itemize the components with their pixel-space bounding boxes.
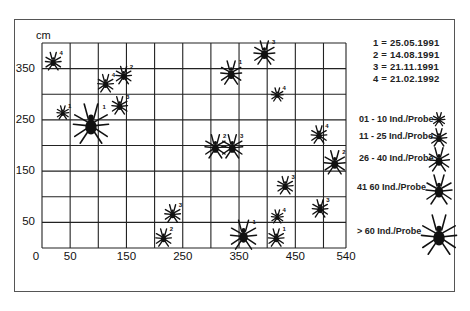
legend-spider-icon [421, 215, 456, 254]
point-date-label: 3 [326, 197, 330, 203]
legend-date-1: 1 = 25.05.1991 [373, 37, 439, 48]
figure-caption-faint [120, 300, 360, 308]
point-date-label: 1 [239, 59, 243, 65]
point-date-label: 4 [282, 85, 286, 91]
legend-date-4: 4 = 21.02.1992 [373, 73, 439, 84]
point-date-label: 1 [282, 226, 286, 232]
spider-marker-icon [271, 210, 283, 223]
legend-spider-icon [431, 129, 447, 146]
grid [42, 43, 346, 248]
legend-spider-icon [426, 175, 452, 204]
data-points: 41142323231341413423 [45, 39, 346, 249]
point-date-label: 4 [112, 72, 116, 78]
point-date-label: 4 [282, 207, 286, 213]
legend-size-1: 01 - 10 Ind./Probe [359, 114, 434, 124]
point-date-label: 1 [102, 104, 106, 110]
legend-date-3: 3 = 21.11.1991 [373, 61, 439, 72]
point-date-label: 3 [126, 94, 130, 100]
spider-marker-icon [271, 88, 283, 101]
point-date-label: 2 [223, 133, 227, 139]
point-date-label: 2 [170, 226, 174, 232]
spider-marker-icon [57, 106, 69, 119]
legend-size-5: > 60 Ind./Probe [357, 226, 421, 236]
point-date-label: 3 [272, 39, 276, 45]
legend-size-2: 11 - 25 Ind./Probe [359, 131, 433, 141]
legend-date-2: 2 = 14.08.1991 [373, 49, 439, 60]
legend-size-4: 41 60 Ind./Probe [357, 182, 426, 192]
legend-spider-icon [433, 113, 445, 126]
point-date-label: 3 [240, 133, 244, 139]
point-date-label: 4 [59, 50, 63, 56]
point-date-label: 1 [68, 103, 72, 109]
legend-size-3: 26 - 40 Ind./Probe [359, 153, 434, 163]
point-date-label: 4 [325, 123, 329, 129]
